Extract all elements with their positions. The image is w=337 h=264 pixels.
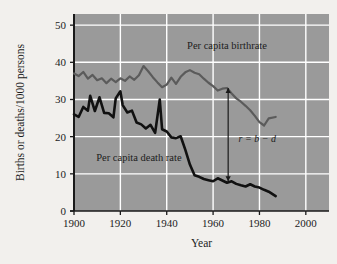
y-axis-tick-label: 0 <box>61 205 67 217</box>
y-axis-tick-labels: 01020304050 <box>55 19 67 217</box>
x-axis-title: Year <box>191 237 212 249</box>
x-axis-tick-label: 1980 <box>248 217 271 229</box>
y-axis-tick-label: 30 <box>55 93 67 105</box>
annotation-formula-text: r = b − d <box>239 133 277 144</box>
x-axis-tick-labels: 190019201940196019802000 <box>63 217 317 229</box>
y-axis-title: Births or deaths/1000 persons <box>14 43 27 181</box>
x-axis-tick-label: 1960 <box>202 217 225 229</box>
x-axis-tick-label: 1900 <box>63 217 86 229</box>
figure-container: 190019201940196019802000 01020304050 Per… <box>0 0 337 264</box>
y-axis-tick-label: 20 <box>55 131 67 143</box>
series-label: Per capita death rate <box>96 152 182 163</box>
series-label: Per capita birthrate <box>187 40 267 51</box>
y-axis-tick-label: 40 <box>55 56 67 68</box>
x-axis-tick-label: 1940 <box>156 217 179 229</box>
x-axis-tick-label: 1920 <box>109 217 132 229</box>
x-axis-tick-label: 2000 <box>295 217 318 229</box>
births-deaths-line-chart: 190019201940196019802000 01020304050 Per… <box>0 0 337 264</box>
y-axis-tick-label: 50 <box>55 19 67 31</box>
y-axis-tick-label: 10 <box>55 168 67 180</box>
